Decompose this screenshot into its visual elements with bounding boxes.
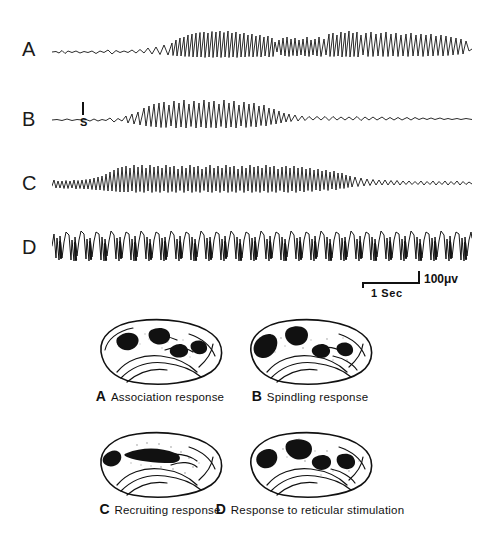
trace-label-a: A [22, 38, 36, 61]
trace-row-a: A [0, 18, 481, 80]
brain-caption-letter-d: D [216, 501, 226, 517]
brain-caption-b: BSpindling response [215, 388, 405, 404]
brain-caption-text-a: Association response [111, 391, 224, 403]
brain-outline-d [215, 425, 405, 505]
trace-row-d: D [0, 216, 481, 278]
brain-outline-b [215, 312, 405, 392]
trace-row-b: B S [0, 88, 481, 150]
trace-waveform-c [52, 152, 472, 214]
brain-diagram-d: DResponse to reticular stimulation [215, 425, 405, 536]
trace-label-d: D [22, 236, 37, 259]
brain-caption-text-b: Spindling response [267, 391, 368, 403]
stimulus-tick-icon [82, 102, 84, 115]
brain-caption-text-c: Recruiting response [115, 504, 221, 516]
trace-waveform-b [52, 88, 472, 150]
stimulus-label-s: S [80, 116, 87, 128]
brain-caption-d: DResponse to reticular stimulation [215, 501, 405, 517]
trace-waveform-a [52, 18, 472, 80]
trace-label-b: B [22, 108, 36, 131]
brain-caption-letter-b: B [252, 388, 262, 404]
scale-bar-left-tick [362, 282, 364, 288]
scale-bar-horizontal-line [362, 282, 420, 284]
scale-bar-vertical-line [418, 271, 420, 284]
brain-caption-letter-c: C [99, 501, 109, 517]
brain-diagram-b: BSpindling response [215, 312, 405, 424]
trace-waveform-d [52, 216, 472, 278]
scale-bar-time-label: 1 Sec [371, 287, 403, 299]
brain-caption-letter-a: A [96, 388, 106, 404]
eeg-figure: A B S C D 100μv 1 Sec [0, 0, 481, 536]
trace-row-c: C [0, 152, 481, 214]
scale-bar-amplitude-label: 100μv [424, 272, 458, 286]
brain-caption-text-d: Response to reticular stimulation [231, 504, 404, 516]
trace-label-c: C [22, 172, 37, 195]
